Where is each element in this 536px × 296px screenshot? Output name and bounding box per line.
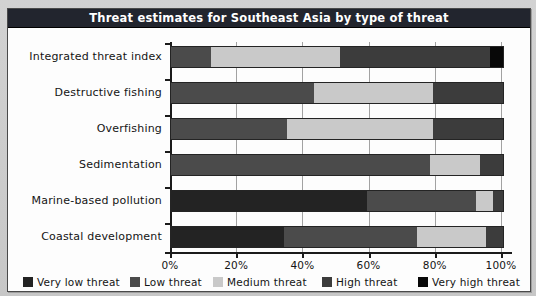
x-axis-tick	[501, 254, 503, 258]
bar-segment	[433, 119, 503, 139]
legend-label: Very low threat	[37, 276, 120, 288]
legend-item: Very low threat	[23, 275, 120, 288]
bar-segment	[486, 227, 503, 247]
bar-segment	[314, 83, 434, 103]
x-axis-tick	[369, 254, 371, 258]
bar-segment	[476, 191, 493, 211]
gridline	[435, 42, 436, 252]
bar-segment	[171, 227, 284, 247]
gridline	[236, 42, 237, 252]
category-label: Destructive fishing	[10, 86, 162, 99]
bar-segment	[171, 191, 367, 211]
bar-segment	[417, 227, 487, 247]
gridline	[501, 42, 502, 252]
legend-item: Very high threat	[418, 275, 520, 288]
x-axis-tick	[302, 254, 304, 258]
chart-title: Threat estimates for Southeast Asia by t…	[89, 11, 448, 25]
bar-row	[170, 154, 504, 176]
y-axis-tick	[165, 187, 170, 189]
category-label: Overfishing	[10, 122, 162, 135]
category-label: Coastal development	[10, 230, 162, 243]
bar-segment	[284, 227, 417, 247]
x-axis-tick	[435, 254, 437, 258]
y-axis-tick	[165, 43, 170, 45]
title-bar: Threat estimates for Southeast Asia by t…	[8, 9, 530, 28]
legend-swatch	[322, 277, 332, 287]
bar-segment	[430, 155, 480, 175]
bar-row	[170, 118, 504, 140]
legend-swatch	[23, 277, 33, 287]
x-tick-label: 80%	[411, 259, 459, 271]
x-tick-label: 60%	[345, 259, 393, 271]
legend-swatch	[418, 277, 428, 287]
y-axis-tick	[165, 223, 170, 225]
legend-label: Very high threat	[432, 276, 520, 288]
y-axis-tick	[165, 115, 170, 117]
bar-segment	[367, 191, 477, 211]
x-tick-label: 40%	[278, 259, 326, 271]
x-axis-line	[165, 252, 512, 254]
bar-row	[170, 46, 504, 68]
x-axis-tick	[170, 254, 172, 258]
bar-segment	[171, 47, 211, 67]
category-label: Integrated threat index	[10, 50, 162, 63]
bar-segment	[171, 83, 314, 103]
bar-segment	[490, 47, 503, 67]
legend-swatch	[213, 277, 223, 287]
legend-item: Low threat	[130, 275, 202, 288]
bar-segment	[480, 155, 503, 175]
bar-segment	[493, 191, 503, 211]
bar-row	[170, 190, 504, 212]
legend-item: Medium threat	[213, 275, 307, 288]
chart-panel: Threat estimates for Southeast Asia by t…	[7, 8, 531, 292]
legend-label: Medium threat	[227, 276, 307, 288]
legend-swatch	[130, 277, 140, 287]
legend-item: High threat	[322, 275, 398, 288]
bar-segment	[171, 119, 287, 139]
y-axis-tick	[165, 79, 170, 81]
bar-segment	[433, 83, 503, 103]
bar-segment	[287, 119, 433, 139]
x-tick-label: 0%	[146, 259, 194, 271]
bar-row	[170, 226, 504, 248]
bar-row	[170, 82, 504, 104]
legend-label: Low threat	[144, 276, 202, 288]
gridline	[302, 42, 303, 252]
scan-background: Threat estimates for Southeast Asia by t…	[0, 0, 536, 296]
category-label: Marine-based pollution	[10, 194, 162, 207]
x-tick-label: 100%	[477, 259, 525, 271]
bar-segment	[171, 155, 430, 175]
category-label: Sedimentation	[10, 158, 162, 171]
gridline	[369, 42, 370, 252]
y-axis-line	[170, 42, 172, 254]
bar-segment	[211, 47, 340, 67]
x-axis-tick	[236, 254, 238, 258]
bar-segment	[340, 47, 489, 67]
x-tick-label: 20%	[212, 259, 260, 271]
y-axis-tick	[165, 151, 170, 153]
legend-label: High threat	[336, 276, 398, 288]
